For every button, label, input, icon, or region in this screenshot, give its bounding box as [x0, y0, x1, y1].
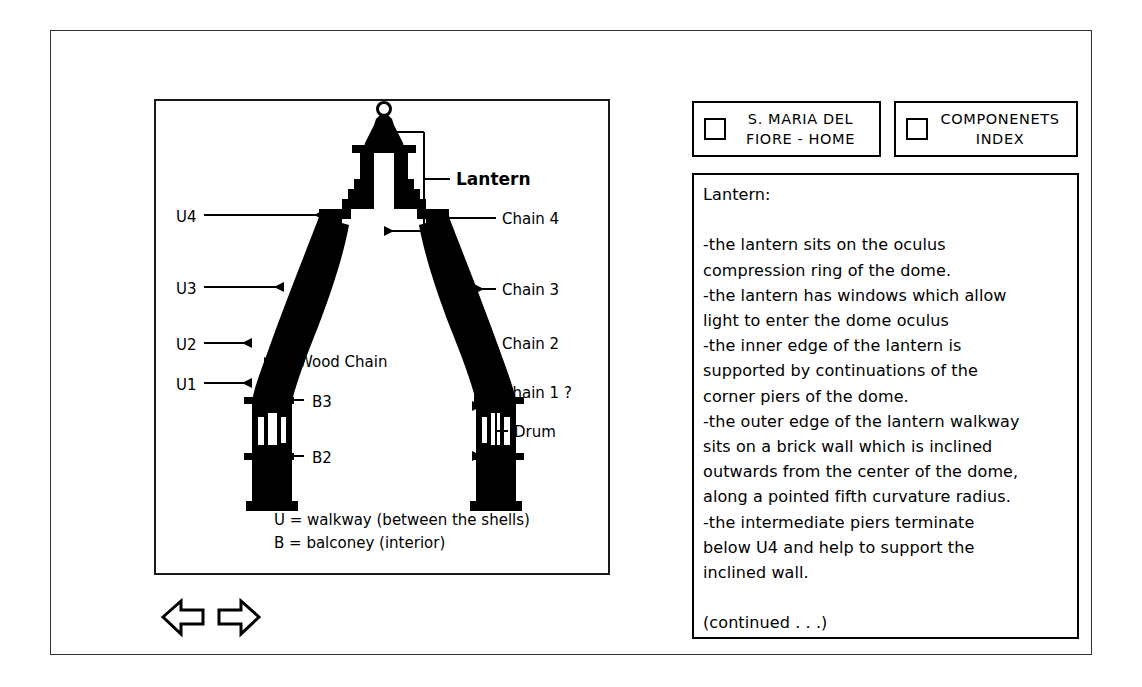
text-line-12: along a pointed fifth curvature radius.	[703, 484, 1069, 509]
lantern-left-buttress	[342, 179, 360, 209]
label-drum: Drum	[514, 423, 556, 441]
label-chain-3: Chain 3	[502, 281, 559, 299]
label-chain-1: Chain 1 ?	[502, 384, 572, 402]
label-u3: U3	[176, 280, 197, 298]
text-line-2: -the lantern sits on the oculus	[703, 232, 1069, 257]
next-page-arrow-icon[interactable]	[219, 601, 259, 634]
lantern-mullion-right	[399, 163, 402, 187]
label-lantern: Lantern	[456, 169, 531, 189]
label-wood-chain: Wood Chain	[298, 353, 387, 371]
text-line-heading: Lantern:	[703, 182, 1069, 207]
dome-diagram-svg: U4 U3 U2 U1 Wood Chain B3 B2 Lantern Cha…	[156, 101, 610, 575]
label-b3: B3	[312, 393, 332, 411]
home-button-label: S. MARIA DEL FIORE - HOME	[726, 109, 879, 149]
sidebar-item-components-index[interactable]: COMPONENETS INDEX	[894, 101, 1078, 157]
text-line-7: supported by continuations of the	[703, 358, 1069, 383]
sidebar-item-santa-maria-del-fiore-home[interactable]: S. MARIA DEL FIORE - HOME	[692, 101, 881, 157]
checkbox-icon-home[interactable]	[704, 118, 726, 140]
index-button-label: COMPONENETS INDEX	[928, 109, 1076, 149]
lantern-description-panel: Lantern: -the lantern sits on the oculus…	[692, 173, 1079, 639]
label-u2: U2	[176, 336, 197, 354]
dome-right-drum-base	[470, 501, 522, 511]
text-line-4: -the lantern has windows which allow	[703, 283, 1069, 308]
text-line-blank-2	[703, 585, 1069, 610]
legend-line-walkway: U = walkway (between the shells)	[274, 511, 530, 529]
dome-left-drum-base	[246, 501, 298, 511]
page-frame: U4 U3 U2 U1 Wood Chain B3 B2 Lantern Cha…	[50, 30, 1092, 655]
lantern-finial-ball	[378, 103, 391, 116]
text-line-13: -the intermediate piers terminate	[703, 510, 1069, 535]
lantern-mullion-left	[366, 163, 369, 187]
previous-page-arrow-icon[interactable]	[163, 601, 203, 634]
label-u4: U4	[176, 208, 197, 226]
dome-left-window-2	[268, 413, 277, 445]
dome-right-window-1	[482, 417, 487, 443]
text-line-continued: (continued . . .)	[703, 610, 1069, 635]
legend-line-balconey: B = balconey (interior)	[274, 534, 445, 552]
text-line-6: -the inner edge of the lantern is	[703, 333, 1069, 358]
label-chain-4: Chain 4	[502, 210, 559, 228]
navigation-arrows	[159, 593, 269, 645]
label-b2: B2	[312, 449, 332, 467]
label-chain-2: Chain 2	[502, 335, 559, 353]
text-line-11: outwards from the center of the dome,	[703, 459, 1069, 484]
text-line-blank-1	[703, 207, 1069, 232]
text-line-3: compression ring of the dome.	[703, 258, 1069, 283]
checkbox-icon-index[interactable]	[906, 118, 928, 140]
text-line-9: -the outer edge of the lantern walkway	[703, 409, 1069, 434]
text-line-15: inclined wall.	[703, 560, 1069, 585]
dome-left-window-3	[281, 417, 286, 443]
text-line-10: sits on a brick wall which is inclined	[703, 434, 1069, 459]
label-u1: U1	[176, 376, 197, 394]
dome-masonry-group	[244, 103, 524, 512]
text-line-14: below U4 and help to support the	[703, 535, 1069, 560]
text-line-5: light to enter the dome oculus	[703, 308, 1069, 333]
text-line-8: corner piers of the dome.	[703, 384, 1069, 409]
dome-left-window-1	[258, 417, 264, 445]
dome-cross-section-diagram-panel: U4 U3 U2 U1 Wood Chain B3 B2 Lantern Cha…	[154, 99, 610, 575]
